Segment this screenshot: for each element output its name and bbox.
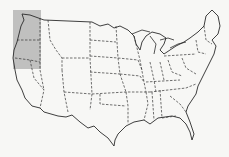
us-map-svg [0, 0, 229, 157]
us-map [0, 0, 229, 157]
state-borders [15, 18, 212, 124]
